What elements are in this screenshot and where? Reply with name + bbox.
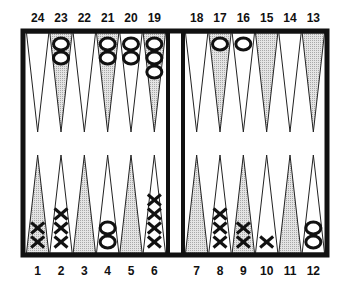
point-3[interactable] — [73, 155, 95, 253]
checker-o[interactable] — [100, 38, 115, 50]
checker-o[interactable] — [100, 222, 115, 234]
point-24[interactable] — [27, 33, 49, 132]
point-13[interactable] — [302, 33, 324, 132]
checker-o[interactable] — [147, 52, 162, 64]
point-5[interactable] — [120, 155, 142, 253]
checker-o[interactable] — [147, 38, 162, 50]
checker-o[interactable] — [124, 38, 139, 50]
point-9[interactable] — [232, 155, 254, 253]
point-8[interactable] — [209, 155, 231, 253]
checker-o[interactable] — [306, 236, 321, 248]
point-15[interactable] — [256, 33, 278, 132]
point-18[interactable] — [186, 33, 208, 132]
checker-o[interactable] — [100, 52, 115, 64]
checker-o[interactable] — [54, 52, 69, 64]
checker-o[interactable] — [100, 236, 115, 248]
backgammon-board — [0, 0, 340, 291]
checker-o[interactable] — [213, 38, 228, 50]
checker-o[interactable] — [306, 222, 321, 234]
checkers-layer — [31, 38, 321, 248]
bar-right-edge — [181, 31, 185, 255]
point-1[interactable] — [27, 155, 49, 253]
checker-o[interactable] — [54, 38, 69, 50]
point-7[interactable] — [186, 155, 208, 253]
checker-o[interactable] — [236, 38, 251, 50]
point-10[interactable] — [256, 155, 278, 253]
checker-o[interactable] — [147, 66, 162, 78]
checker-o[interactable] — [124, 52, 139, 64]
point-2[interactable] — [50, 155, 72, 253]
points-layer — [27, 33, 325, 253]
point-11[interactable] — [279, 155, 301, 253]
bar-left-edge — [166, 31, 170, 255]
point-14[interactable] — [279, 33, 301, 132]
point-6[interactable] — [143, 155, 165, 253]
point-22[interactable] — [73, 33, 95, 132]
